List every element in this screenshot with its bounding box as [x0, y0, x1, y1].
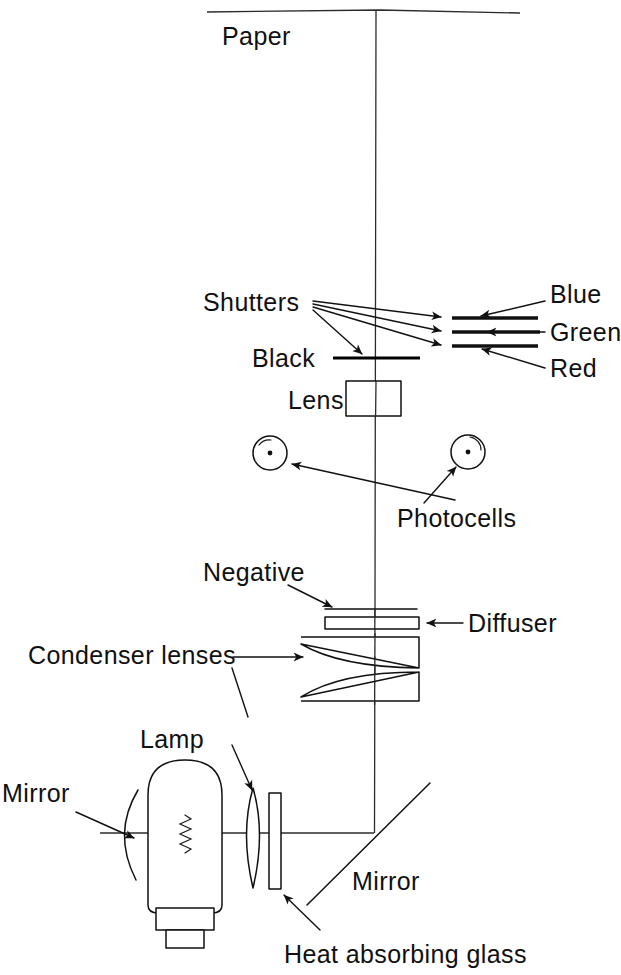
mirror-bottom-label: Mirror — [352, 867, 420, 895]
photocell-left-arc — [259, 440, 271, 445]
photocells-label: Photocells — [397, 504, 516, 532]
lamp-leader — [232, 745, 252, 790]
red-label: Red — [550, 354, 597, 382]
negative-diffuser-group: Negative Diffuser — [203, 558, 557, 637]
optical-schematic-diagram: Paper Shutters Blue Green Red Black Lens — [0, 0, 621, 975]
negative-leader — [288, 585, 332, 607]
blue-leader — [481, 301, 545, 316]
green-label: Green — [550, 318, 621, 346]
photocell-left-dot — [268, 451, 273, 456]
black-label: Black — [252, 344, 315, 372]
diffuser-label: Diffuser — [468, 609, 557, 637]
paper-label: Paper — [222, 22, 291, 50]
lens-group: Lens — [288, 381, 401, 416]
mirror-bottom-group: Mirror — [307, 783, 430, 905]
paper-plane-line — [207, 10, 520, 13]
diffuser-plate — [325, 617, 419, 629]
condenser-lenses-group: Condenser lenses — [28, 633, 419, 717]
shutter-leader-black — [313, 310, 362, 354]
lamp-condenser-lens — [247, 788, 260, 888]
shutters-label: Shutters — [203, 288, 299, 316]
photocells-group: Photocells — [253, 435, 516, 532]
heat-absorbing-glass-label: Heat absorbing glass — [284, 940, 527, 968]
photocell-right-dot — [466, 450, 471, 455]
condenser-lens-upper — [301, 637, 419, 668]
vertical-optical-axis — [375, 11, 377, 833]
lamp-label: Lamp — [140, 725, 204, 753]
heat-absorbing-glass-plate — [269, 793, 281, 889]
mirror-left-label: Mirror — [2, 779, 70, 807]
black-shutter-group: Black — [252, 344, 420, 372]
lamp-house-group: Mirror Lamp Heat absorbing glass — [2, 725, 527, 968]
lens-label: Lens — [288, 386, 344, 414]
vertical-optical-axis-group — [375, 11, 377, 833]
heat-absorbing-glass-leader — [284, 895, 320, 930]
lamp-base-upper — [156, 908, 214, 930]
photocell-right-leader — [424, 467, 456, 503]
lens-rectangle — [346, 381, 401, 416]
shutter-leader-blue — [313, 301, 441, 317]
red-leader — [482, 349, 545, 368]
condenser-lenses-leader-lower — [232, 668, 248, 717]
lamp-base-lower — [166, 930, 204, 948]
blue-label: Blue — [550, 280, 602, 308]
schematic-canvas: Paper Shutters Blue Green Red Black Lens — [0, 0, 621, 975]
negative-label: Negative — [203, 558, 305, 586]
paper-plane-group: Paper — [207, 10, 520, 50]
condenser-lenses-label: Condenser lenses — [28, 641, 236, 669]
condenser-lens-lower — [301, 672, 419, 701]
shutter-leader-red — [313, 307, 441, 345]
